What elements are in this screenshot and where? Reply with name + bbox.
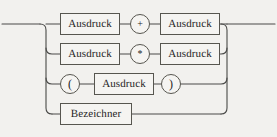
terminal-plus-operator: + [130,14,150,34]
terminal-close-paren: ) [161,74,181,94]
syntax-diagram: Ausdruck + Ausdruck Ausdruck * Ausdruck … [0,0,277,137]
node-layer: Ausdruck + Ausdruck Ausdruck * Ausdruck … [0,0,277,137]
terminal-open-paren: ( [60,74,80,94]
nonterminal-ausdruck-parenthesized: Ausdruck [94,73,154,95]
terminal-asterisk-operator: * [130,44,150,64]
nonterminal-ausdruck-right-mul: Ausdruck [160,43,220,65]
nonterminal-ausdruck-left-add: Ausdruck [60,13,120,35]
nonterminal-bezeichner: Bezeichner [60,103,132,125]
nonterminal-ausdruck-left-mul: Ausdruck [60,43,120,65]
nonterminal-ausdruck-right-add: Ausdruck [160,13,220,35]
